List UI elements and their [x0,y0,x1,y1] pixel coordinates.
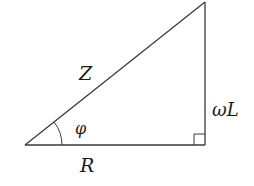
right-angle-marker [194,134,205,145]
hypotenuse-line [25,2,205,145]
label-hypotenuse: Z [78,62,93,84]
angle-arc [54,122,62,145]
label-vertical-side: ωL [212,99,239,120]
impedance-triangle-diagram: Z ωL R φ [0,0,254,186]
label-base: R [79,154,94,176]
label-angle: φ [75,119,87,138]
